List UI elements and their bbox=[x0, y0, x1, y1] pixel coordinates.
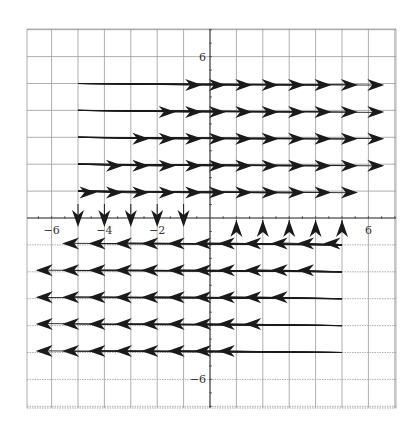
x-tick-label: −6 bbox=[43, 224, 59, 237]
arrowhead-left-icon bbox=[323, 237, 340, 249]
x-tick-label: 6 bbox=[365, 224, 372, 237]
arrowhead-right-icon bbox=[80, 187, 97, 199]
arrowhead-left-icon bbox=[297, 264, 314, 276]
y-tick-label: −6 bbox=[190, 373, 206, 386]
arrowhead-right-icon bbox=[106, 160, 123, 172]
arrowhead-right-icon bbox=[367, 106, 384, 118]
arrowhead-left-icon bbox=[36, 318, 53, 330]
y-tick-label: 6 bbox=[199, 51, 206, 64]
vector-field-plot: −6−4−266−6 bbox=[0, 0, 416, 423]
